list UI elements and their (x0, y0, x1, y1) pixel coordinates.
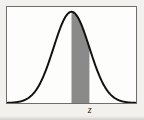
normal-curve-figure: z (0, 0, 144, 120)
normal-curve-svg (7, 7, 136, 103)
shaded-area-region (72, 12, 90, 103)
scan-noise-band (0, 116, 144, 120)
z-axis-label: z (82, 104, 98, 116)
plot-frame (6, 6, 137, 104)
